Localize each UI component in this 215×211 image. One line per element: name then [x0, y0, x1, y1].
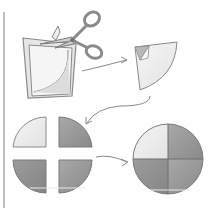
curved-arrow-icon	[96, 156, 128, 166]
step-1-folded-square	[23, 26, 76, 98]
diagram-canvas	[0, 0, 215, 211]
curved-arrow-icon	[86, 96, 150, 124]
step-2-quarter-piece	[135, 42, 177, 90]
step-3-four-quarters	[13, 117, 92, 193]
curved-arrow-icon	[82, 57, 127, 71]
step-4-assembled-circle	[133, 124, 203, 194]
